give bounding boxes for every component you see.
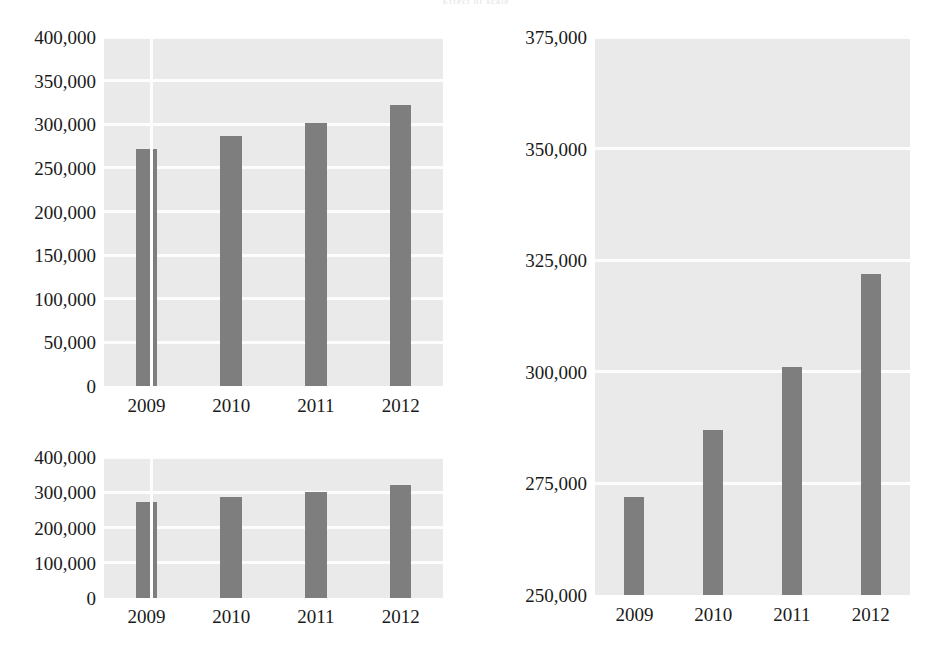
y-axis-tick-label: 375,000 xyxy=(470,28,587,47)
gridline xyxy=(104,79,443,82)
gridline xyxy=(104,457,443,459)
y-axis-tick-label: 350,000 xyxy=(0,72,96,91)
x-axis-tick-label: 2012 xyxy=(831,605,911,624)
plot-area-magnified xyxy=(595,37,910,595)
x-axis-tick-label: 2011 xyxy=(752,605,832,624)
bar xyxy=(305,123,327,386)
y-axis-tick-label: 400,000 xyxy=(0,448,96,467)
y-axis-tick-label: 150,000 xyxy=(0,246,96,265)
y-axis-tick-label: 325,000 xyxy=(470,251,587,270)
bar xyxy=(220,497,242,598)
y-axis-tick-label: 0 xyxy=(0,377,96,396)
y-axis-tick-label: 100,000 xyxy=(0,290,96,309)
x-axis-tick-label: 2009 xyxy=(594,605,674,624)
y-axis-tick-label: 400,000 xyxy=(0,28,96,47)
bar xyxy=(703,430,723,595)
gridline xyxy=(104,37,443,39)
y-axis-tick-label: 300,000 xyxy=(0,483,96,502)
bar xyxy=(861,274,881,595)
x-axis-tick-label: 2010 xyxy=(186,396,276,415)
x-axis-tick-label: 2011 xyxy=(271,607,361,626)
x-axis-tick-label: 2012 xyxy=(356,607,446,626)
x-axis-tick-label: 2012 xyxy=(356,396,446,415)
bar xyxy=(220,136,242,386)
gridline xyxy=(595,37,910,39)
x-axis-tick-label: 2011 xyxy=(271,396,361,415)
x-axis-tick-label: 2010 xyxy=(186,607,276,626)
bar xyxy=(136,502,158,598)
x-axis-tick-label: 2009 xyxy=(101,396,191,415)
bar xyxy=(624,497,644,595)
y-axis-tick-label: 300,000 xyxy=(470,363,587,382)
bar xyxy=(136,149,158,386)
plot-area-full-scale xyxy=(104,37,443,386)
y-axis-tick-label: 300,000 xyxy=(0,115,96,134)
bar xyxy=(782,367,802,595)
gridline xyxy=(595,259,910,262)
chart-magnified: 250,000275,000300,000325,000350,000375,0… xyxy=(470,0,940,655)
x-axis-tick-label: 2009 xyxy=(101,607,191,626)
plot-divider-line xyxy=(150,37,153,386)
chart-full-scale: 050,000100,000150,000200,000250,000300,0… xyxy=(0,0,470,425)
y-axis-tick-label: 250,000 xyxy=(0,159,96,178)
plot-area-compressed xyxy=(104,457,443,598)
bar xyxy=(390,485,412,599)
y-axis-tick-label: 0 xyxy=(0,589,96,608)
y-axis-tick-label: 250,000 xyxy=(470,586,587,605)
y-axis-tick-label: 200,000 xyxy=(0,203,96,222)
gridline xyxy=(595,147,910,150)
bar xyxy=(305,492,327,598)
x-axis-tick-label: 2010 xyxy=(673,605,753,624)
y-axis-tick-label: 350,000 xyxy=(470,140,587,159)
bar xyxy=(390,105,412,386)
y-axis-tick-label: 100,000 xyxy=(0,554,96,573)
chart-compressed: 0100,000200,000300,000400,00020092010201… xyxy=(0,425,470,655)
y-axis-tick-label: 50,000 xyxy=(0,333,96,352)
y-axis-tick-label: 200,000 xyxy=(0,519,96,538)
plot-divider-line xyxy=(150,457,153,598)
y-axis-tick-label: 275,000 xyxy=(470,474,587,493)
